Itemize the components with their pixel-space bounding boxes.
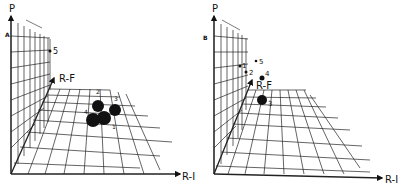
panel-a-point-1-label: 1: [112, 123, 116, 130]
panel-a-points: [49, 50, 122, 128]
panel-b-point-5-label: 5: [259, 58, 263, 66]
panel-a-point-4-label: 4: [84, 108, 88, 115]
panel-b-ri-axis: [214, 174, 382, 178]
panel-a-p-label: P: [9, 3, 15, 14]
figure: P A 5 R-F R-I 2 3 4 1: [0, 0, 413, 186]
panel-a-point-3: [109, 104, 121, 116]
panel-a-wall-grid: [11, 20, 50, 174]
panel-b-ri-label: R-I: [385, 174, 398, 185]
panel-a-point-5-label: 5: [53, 47, 58, 56]
panel-b: [214, 16, 382, 178]
panel-a-point-3-label: 3: [114, 95, 118, 102]
panel-a-rf-axis: [11, 78, 54, 174]
panel-b-point-3-label: 3: [268, 100, 272, 108]
panel-b-wall-grid: [214, 20, 248, 174]
panel-a-label: A: [5, 31, 10, 38]
panel-b-point-5: [255, 60, 258, 63]
panel-a-point-2: [92, 100, 104, 112]
panel-b-p-label: P: [212, 3, 218, 14]
panel-b-floor-grid: [216, 90, 370, 174]
panel-b-label: B: [203, 34, 208, 41]
panel-a-ri-label: R-I: [182, 171, 195, 182]
panel-a-rf-label: R-F: [59, 73, 75, 84]
panel-a: [11, 16, 180, 174]
panel-b-point-2: [245, 71, 248, 74]
panel-b-rf-label: R-F: [256, 80, 272, 91]
panel-b-point-4-label: 4: [265, 70, 270, 78]
panel-b-point-3: [257, 95, 267, 105]
panel-b-point-2-label: 2: [249, 69, 253, 77]
panel-a-point-1: [97, 111, 111, 125]
panel-b-point-1-label: 1: [242, 62, 246, 70]
panel-a-point-2-label: 2: [96, 88, 100, 95]
panel-a-point-5: [49, 50, 52, 53]
